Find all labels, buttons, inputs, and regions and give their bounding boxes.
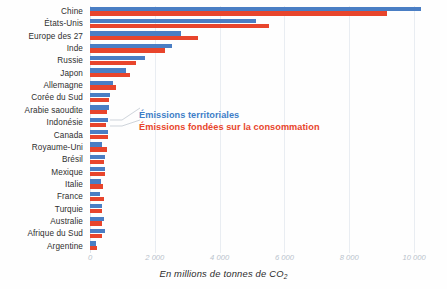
bar-territorial bbox=[90, 130, 108, 134]
x-axis-caption: En millions de tonnes de CO2 bbox=[0, 268, 447, 280]
bar-consumption bbox=[90, 36, 198, 40]
bar-row bbox=[90, 154, 440, 165]
bar-territorial bbox=[90, 179, 101, 183]
x-tick-label: 4 000 bbox=[210, 253, 229, 262]
bar-row bbox=[90, 191, 440, 202]
x-tick-label: 6 000 bbox=[275, 253, 294, 262]
category-label: Turquie bbox=[55, 205, 83, 214]
x-axis-caption-subscript: 2 bbox=[284, 273, 288, 280]
x-axis-ticks: 02 0004 0006 0008 00010 000 bbox=[90, 253, 440, 267]
category-label: Canada bbox=[54, 131, 83, 140]
bar-territorial bbox=[90, 142, 102, 146]
bar-row bbox=[90, 228, 440, 239]
bar-row bbox=[90, 167, 440, 178]
category-label: Allemagne bbox=[43, 81, 83, 90]
bar-consumption bbox=[90, 160, 104, 164]
category-label: France bbox=[57, 192, 83, 201]
category-label: Australie bbox=[50, 217, 83, 226]
bar-consumption bbox=[90, 98, 109, 102]
category-label: Argentine bbox=[47, 242, 83, 251]
category-label: Brésil bbox=[62, 155, 83, 164]
bar-row bbox=[90, 142, 440, 153]
bar-row bbox=[90, 241, 440, 252]
bar-territorial bbox=[90, 19, 256, 23]
bar-consumption bbox=[90, 234, 102, 238]
category-label: Chine bbox=[61, 7, 83, 16]
bar-territorial bbox=[90, 105, 109, 109]
bar-consumption bbox=[90, 172, 105, 176]
bar-territorial bbox=[90, 217, 104, 221]
category-label: Europe des 27 bbox=[28, 32, 83, 41]
bar-row bbox=[90, 6, 440, 17]
bar-consumption bbox=[90, 85, 116, 89]
category-axis-labels: ChineÉtats-UnisEurope des 27IndeRussieJa… bbox=[0, 6, 86, 253]
bar-territorial bbox=[90, 44, 172, 48]
bar-consumption bbox=[90, 123, 106, 127]
category-label: Afrique du Sud bbox=[27, 229, 83, 238]
x-tick-label: 2 000 bbox=[145, 253, 164, 262]
bar-consumption bbox=[90, 246, 97, 250]
category-label: Japon bbox=[60, 69, 83, 78]
bar-territorial bbox=[90, 118, 108, 122]
category-label: Royaume-Uni bbox=[32, 143, 83, 152]
bar-territorial bbox=[90, 155, 105, 159]
bar-consumption bbox=[90, 135, 108, 139]
category-label: Arabie saoudite bbox=[25, 106, 83, 115]
bar-territorial bbox=[90, 7, 421, 11]
x-tick-label: 0 bbox=[88, 253, 92, 262]
bar-row bbox=[90, 179, 440, 190]
bar-territorial bbox=[90, 56, 145, 60]
bar-territorial bbox=[90, 93, 110, 97]
emissions-bar-chart: ChineÉtats-UnisEurope des 27IndeRussieJa… bbox=[0, 0, 447, 289]
bar-consumption bbox=[90, 48, 165, 52]
category-label: Italie bbox=[65, 180, 83, 189]
bar-territorial bbox=[90, 31, 181, 35]
legend-entry-consumption: Émissions fondées sur la consommation bbox=[139, 122, 389, 134]
bar-consumption bbox=[90, 11, 387, 15]
bar-territorial bbox=[90, 204, 102, 208]
x-axis-caption-text: En millions de tonnes de CO bbox=[159, 268, 283, 279]
bar-territorial bbox=[90, 241, 96, 245]
bar-consumption bbox=[90, 209, 102, 213]
bar-consumption bbox=[90, 147, 107, 151]
category-label: Corée du Sud bbox=[31, 93, 83, 102]
bar-consumption bbox=[90, 110, 107, 114]
bar-row bbox=[90, 43, 440, 54]
category-label: États-Unis bbox=[44, 19, 83, 28]
bar-row bbox=[90, 204, 440, 215]
bar-consumption bbox=[90, 184, 103, 188]
bar-row bbox=[90, 68, 440, 79]
bar-territorial bbox=[90, 229, 105, 233]
bar-consumption bbox=[90, 197, 104, 201]
bar-row bbox=[90, 18, 440, 29]
category-label: Russie bbox=[57, 56, 83, 65]
bar-consumption bbox=[90, 73, 130, 77]
category-label: Indonésie bbox=[47, 118, 83, 127]
bar-territorial bbox=[90, 81, 113, 85]
bar-row bbox=[90, 31, 440, 42]
bar-row bbox=[90, 55, 440, 66]
bar-territorial bbox=[90, 167, 105, 171]
category-label: Mexique bbox=[51, 168, 83, 177]
bar-row bbox=[90, 216, 440, 227]
bar-consumption bbox=[90, 221, 102, 225]
bar-consumption bbox=[90, 24, 269, 28]
bar-territorial bbox=[90, 192, 100, 196]
bar-territorial bbox=[90, 68, 126, 72]
chart-legend: Émissions territoriales Émissions fondée… bbox=[139, 110, 389, 133]
x-tick-label: 10 000 bbox=[402, 253, 425, 262]
category-label: Inde bbox=[67, 44, 83, 53]
legend-entry-territorial: Émissions territoriales bbox=[139, 110, 389, 122]
bar-row bbox=[90, 92, 440, 103]
bar-row bbox=[90, 80, 440, 91]
x-tick-label: 8 000 bbox=[340, 253, 359, 262]
bar-consumption bbox=[90, 61, 136, 65]
